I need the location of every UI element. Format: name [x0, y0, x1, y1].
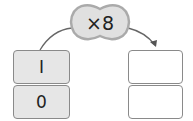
output-box-tens[interactable] [128, 50, 183, 84]
left-arc [40, 28, 72, 50]
output-box-ones[interactable] [128, 85, 183, 119]
input-box-ones: 0 [13, 85, 70, 119]
input-box-tens: I [13, 50, 70, 84]
operator-label: ×8 [70, 4, 130, 42]
